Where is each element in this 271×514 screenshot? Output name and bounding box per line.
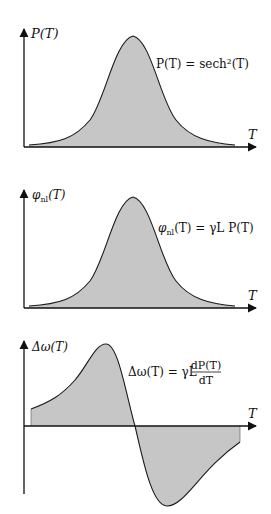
x-axis-label: T: [248, 127, 258, 142]
phase-equation: φnl(T) = γL P(T): [158, 221, 254, 237]
frequency-equation: Δω(T) = γL dP(T) dT: [128, 359, 221, 387]
power-equation: P(T) = sech²(T): [156, 57, 249, 71]
phase-panel: φnl(T) T φnl(T) = γL P(T): [24, 188, 258, 308]
svg-text:dT: dT: [199, 374, 214, 387]
power-panel: P(T) T P(T) = sech²(T): [24, 26, 258, 147]
diagram-canvas: P(T) T P(T) = sech²(T) φnl(T) T φnl(T) =…: [0, 0, 271, 514]
svg-text:Δω(T) = γL: Δω(T) = γL: [128, 365, 197, 379]
power-curve-area: [29, 36, 235, 147]
svg-text:dP(T): dP(T): [191, 359, 221, 372]
y-axis-label: φnl(T): [32, 188, 66, 204]
y-axis-label: Δω(T): [31, 340, 68, 354]
frequency-shift-panel: Δω(T) T Δω(T) = γL dP(T) dT: [24, 340, 258, 506]
x-axis-label: T: [248, 406, 258, 421]
y-axis-label: P(T): [30, 26, 59, 41]
phase-curve-area: [29, 197, 235, 308]
x-axis-label: T: [248, 288, 258, 303]
